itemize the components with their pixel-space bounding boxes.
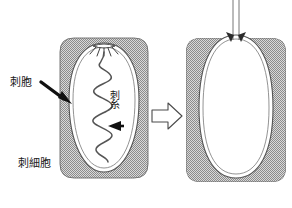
right-capsule-inner [203,39,269,174]
figure-canvas: 刺胞 刺細胞 刺糸 [0,0,292,208]
diagram-svg [0,0,292,208]
right-panel-discharged [186,0,286,182]
left-capsule-inner [73,47,135,168]
everted-thread-tube [233,0,239,40]
transition-arrow [152,103,182,129]
label-thread: 刺糸 [108,90,118,108]
left-panel-undischarged [41,38,148,178]
label-cnidocyte-capsule: 刺胞 [10,77,32,89]
label-stinging-cell: 刺細胞 [18,158,51,170]
left-operculum [93,44,115,48]
